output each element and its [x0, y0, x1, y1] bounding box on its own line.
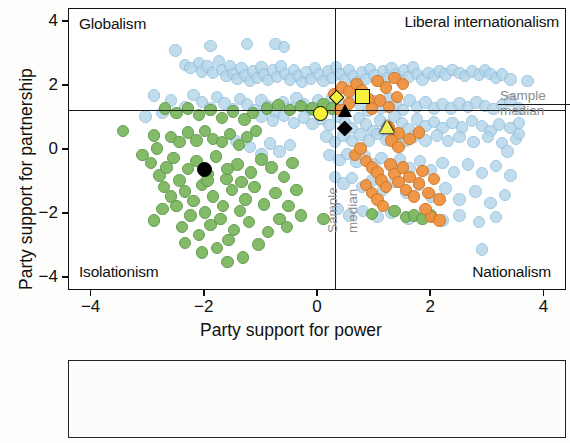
data-point	[397, 78, 409, 90]
data-point	[499, 189, 511, 201]
data-point	[228, 224, 240, 236]
data-point	[383, 101, 395, 113]
x-tick	[203, 290, 205, 296]
y-tick-label: 2	[34, 75, 58, 95]
data-point	[148, 214, 160, 226]
data-point	[436, 157, 448, 169]
data-point	[476, 167, 488, 179]
data-point	[170, 107, 182, 119]
data-point	[148, 89, 160, 101]
data-point	[490, 160, 502, 172]
y-tick-label: 4	[34, 11, 58, 31]
data-point	[210, 150, 222, 162]
data-point	[513, 128, 525, 140]
data-point	[235, 176, 247, 188]
quadrant-label-top-left: Globalism	[79, 15, 146, 33]
sample-median-right-line2: median	[500, 103, 546, 118]
data-point	[469, 185, 481, 197]
plot-area: GlobalismLiberal internationalismIsolati…	[68, 8, 566, 290]
data-point	[176, 221, 188, 233]
data-point	[241, 38, 253, 50]
data-point	[237, 251, 249, 263]
data-point	[193, 229, 205, 241]
data-point	[462, 158, 474, 170]
legend	[68, 360, 566, 438]
data-point	[284, 139, 296, 151]
x-tick	[316, 290, 318, 296]
data-point	[504, 169, 516, 181]
x-tick-label: −2	[184, 297, 224, 317]
sample-median-vertical-line1: Sample	[325, 188, 340, 234]
christian-dem-mean-marker	[355, 89, 370, 104]
data-point	[262, 226, 274, 238]
data-point	[282, 200, 294, 212]
data-point	[501, 145, 513, 157]
data-point	[482, 131, 494, 143]
data-point	[148, 129, 160, 141]
data-point	[504, 73, 516, 85]
data-point	[207, 190, 219, 202]
data-point	[239, 193, 251, 205]
data-point	[281, 221, 293, 233]
social-dem-mean-marker	[313, 106, 328, 121]
data-point	[269, 187, 281, 199]
data-point	[169, 44, 181, 56]
data-point	[252, 238, 264, 250]
x-tick-label: 4	[523, 297, 563, 317]
x-tick-label: 2	[410, 297, 450, 317]
x-axis-title: Party support for power	[200, 320, 382, 341]
data-point	[187, 195, 199, 207]
y-tick-label: 0	[34, 139, 58, 159]
data-point	[221, 256, 233, 268]
data-point	[204, 40, 216, 52]
data-point	[139, 110, 151, 122]
median-line-vertical	[335, 9, 336, 289]
data-point	[184, 209, 196, 221]
x-tick-label: 0	[297, 297, 337, 317]
data-point	[521, 75, 533, 87]
data-point	[286, 157, 298, 169]
x-tick	[90, 290, 92, 296]
quadrant-label-bottom-right: Nationalism	[472, 263, 551, 281]
radical-left-mean-marker	[197, 162, 212, 177]
median-line-extension	[498, 104, 570, 105]
data-point	[145, 157, 157, 169]
sample-median-right-label: Sample median	[500, 88, 546, 118]
data-point	[167, 152, 179, 164]
data-point	[211, 242, 223, 254]
data-point	[278, 171, 290, 183]
data-point	[448, 166, 460, 178]
data-point	[217, 200, 229, 212]
chart-root: Party support for partnership Party supp…	[0, 0, 570, 443]
sample-median-vertical-line2: median	[345, 189, 360, 233]
sample-median-right-line1: Sample	[500, 88, 546, 103]
x-tick	[543, 290, 545, 296]
conservative-mean-marker	[380, 120, 394, 133]
data-point	[413, 126, 425, 138]
data-point	[366, 102, 378, 114]
data-point	[179, 237, 191, 249]
data-point	[199, 206, 211, 218]
data-point	[170, 200, 182, 212]
data-point	[196, 246, 208, 258]
mainstream-mean-marker	[338, 104, 352, 117]
data-point	[490, 211, 502, 223]
data-point	[245, 166, 257, 178]
data-point	[453, 193, 465, 205]
data-point	[354, 142, 366, 154]
data-point	[416, 165, 428, 177]
data-point	[258, 198, 270, 210]
data-point	[214, 213, 226, 225]
scatter-points	[69, 9, 565, 289]
data-point	[265, 161, 277, 173]
data-point	[392, 141, 404, 153]
data-point	[221, 163, 233, 175]
data-point	[380, 181, 392, 193]
data-point	[190, 134, 202, 146]
quadrant-label-bottom-left: Isolationism	[79, 263, 158, 281]
data-point	[433, 214, 445, 226]
data-point	[408, 190, 420, 202]
x-tick-label: −4	[71, 297, 111, 317]
data-point	[234, 205, 246, 217]
data-point	[117, 125, 129, 137]
